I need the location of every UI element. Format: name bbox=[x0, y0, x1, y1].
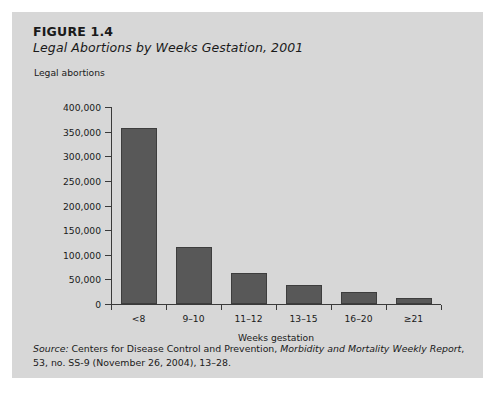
source-label: Source: bbox=[33, 343, 69, 354]
figure-title: Legal Abortions by Weeks Gestation, 2001 bbox=[33, 39, 463, 56]
x-tick-mark bbox=[331, 305, 332, 310]
x-tick-mark bbox=[111, 305, 112, 310]
figure-header: FIGURE 1.4 Legal Abortions by Weeks Gest… bbox=[33, 24, 463, 56]
x-tick-mark bbox=[386, 305, 387, 310]
y-tick-mark bbox=[105, 107, 111, 108]
bar bbox=[121, 128, 157, 304]
y-tick-mark bbox=[105, 230, 111, 231]
y-axis-line bbox=[111, 107, 112, 305]
x-tick-label: 16–20 bbox=[345, 313, 373, 324]
plot-area: 050,000100,000150,000200,000250,000300,0… bbox=[33, 67, 463, 322]
x-tick-mark bbox=[221, 305, 222, 310]
y-tick-label: 150,000 bbox=[63, 225, 101, 236]
y-tick-label: 300,000 bbox=[63, 151, 101, 162]
y-tick-label: 0 bbox=[95, 299, 101, 310]
y-tick-label: 350,000 bbox=[63, 126, 101, 137]
y-tick-label: 50,000 bbox=[69, 274, 101, 285]
source-note: Source: Centers for Disease Control and … bbox=[33, 342, 465, 369]
y-tick-mark bbox=[105, 156, 111, 157]
y-tick-mark bbox=[105, 206, 111, 207]
figure-panel: FIGURE 1.4 Legal Abortions by Weeks Gest… bbox=[12, 12, 483, 378]
bar bbox=[286, 285, 322, 304]
figure-number: FIGURE 1.4 bbox=[33, 24, 463, 39]
y-tick-mark bbox=[105, 181, 111, 182]
source-publication: Morbidity and Mortality Weekly Report bbox=[280, 343, 461, 354]
x-tick-mark bbox=[166, 305, 167, 310]
chart-area: Legal abortions 050,000100,000150,000200… bbox=[33, 67, 463, 322]
y-tick-label: 100,000 bbox=[63, 249, 101, 260]
bar bbox=[176, 247, 212, 304]
x-tick-label: ≥21 bbox=[404, 313, 423, 324]
bar bbox=[231, 273, 267, 304]
y-tick-label: 400,000 bbox=[63, 102, 101, 113]
y-tick-mark bbox=[105, 255, 111, 256]
y-tick-label: 250,000 bbox=[63, 175, 101, 186]
y-tick-mark bbox=[105, 132, 111, 133]
x-tick-label: 13–15 bbox=[290, 313, 318, 324]
source-text-before: Centers for Disease Control and Preventi… bbox=[69, 343, 281, 354]
x-tick-label: 11–12 bbox=[235, 313, 263, 324]
bar bbox=[396, 298, 432, 304]
x-tick-label: <8 bbox=[132, 313, 146, 324]
y-tick-label: 200,000 bbox=[63, 200, 101, 211]
y-tick-mark bbox=[105, 279, 111, 280]
x-tick-mark bbox=[441, 305, 442, 310]
x-tick-mark bbox=[276, 305, 277, 310]
bar bbox=[341, 292, 377, 304]
x-tick-label: 9–10 bbox=[182, 313, 204, 324]
